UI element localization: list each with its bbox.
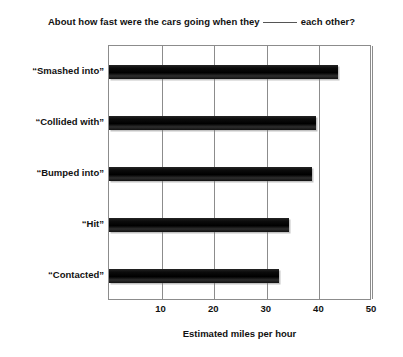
y-axis-category-labels: “Smashed into”“Collided with”“Bumped int… [0, 45, 104, 300]
x-tick-label-40: 40 [303, 303, 333, 314]
plot-area [108, 45, 371, 300]
category-label: “Collided with” [0, 116, 104, 127]
category-label: “Contacted” [0, 269, 104, 280]
fill-in-blank-line [263, 15, 297, 23]
x-axis-title: Estimated miles per hour [108, 328, 371, 339]
x-tick-label-20: 20 [198, 303, 228, 314]
gridline-50 [372, 46, 373, 299]
bar[interactable] [109, 116, 316, 130]
bar-row [109, 97, 372, 148]
category-label: “Bumped into” [0, 167, 104, 178]
chart-title-prefix: About how fast were the cars going when … [48, 16, 260, 27]
bar[interactable] [109, 167, 312, 181]
bar-row [109, 148, 372, 199]
bar[interactable] [109, 218, 289, 232]
bar[interactable] [109, 65, 338, 79]
bar[interactable] [109, 269, 279, 283]
chart-title: About how fast were the cars going when … [0, 15, 403, 27]
category-label: “Hit” [0, 218, 104, 229]
x-tick-label-30: 30 [251, 303, 281, 314]
bar-row [109, 199, 372, 250]
bar-row [109, 46, 372, 97]
x-tick-label-50: 50 [356, 303, 386, 314]
chart-title-suffix: each other? [301, 16, 355, 27]
x-axis-tick-labels: 1020304050 [108, 303, 371, 317]
category-label: “Smashed into” [0, 65, 104, 76]
bar-chart-figure: About how fast were the cars going when … [0, 0, 403, 357]
bar-row [109, 250, 372, 301]
x-tick-label-10: 10 [146, 303, 176, 314]
